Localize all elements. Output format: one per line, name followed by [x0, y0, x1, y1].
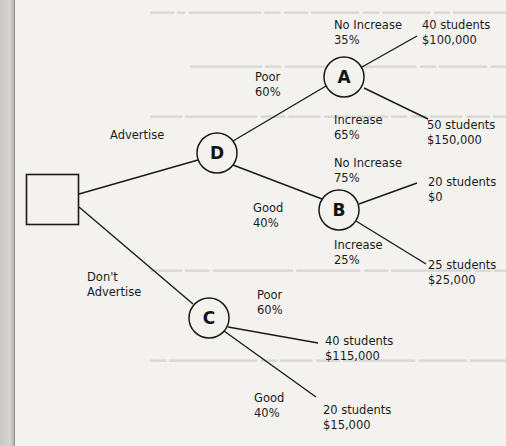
outcome-b-no-increase-students: 20 students: [428, 175, 496, 190]
branch-a-no-increase-prob: 35%: [334, 33, 360, 48]
option-dont-advertise-label-line1: Don't: [87, 270, 118, 285]
outcome-a-increase-profit: $150,000: [427, 133, 482, 148]
decision-node-square: [27, 175, 79, 225]
branch-d-good-name: Good: [253, 201, 283, 216]
chance-node-c: C: [189, 298, 229, 338]
outcome-a-increase-students: 50 students: [427, 118, 495, 133]
outcome-a-no-increase-profit: $100,000: [422, 33, 477, 48]
branch-d-good-prob: 40%: [253, 216, 279, 231]
page: ━━━━ ━━━━━━━ ━━ ━━━━━━ ━━ ━━━━━━ ━━━ ━━ …: [0, 0, 506, 446]
outcome-b-increase-profit: $25,000: [428, 273, 476, 288]
branch-c-good-name: Good: [254, 391, 284, 406]
outcome-c-poor-profit: $115,000: [325, 349, 380, 364]
edge-b-no-increase: [359, 183, 417, 204]
edge-advertise: [79, 160, 198, 194]
option-advertise-label: Advertise: [110, 128, 164, 143]
branch-c-poor-prob: 60%: [257, 303, 283, 318]
edge-d-good: [233, 165, 322, 199]
branch-b-increase-prob: 25%: [334, 253, 360, 268]
branch-a-increase-name: Increase: [334, 113, 383, 128]
edge-c-poor: [228, 327, 318, 343]
branch-a-increase-prob: 65%: [334, 128, 360, 143]
outcome-b-no-increase-profit: $0: [428, 190, 443, 205]
branch-b-no-increase-prob: 75%: [334, 171, 360, 186]
option-dont-advertise-label-line2: Advertise: [87, 285, 141, 300]
outcome-c-good-students: 20 students: [323, 403, 391, 418]
chance-node-d: D: [197, 133, 237, 173]
chance-node-a: A: [324, 57, 364, 97]
outcome-c-poor-students: 40 students: [325, 334, 393, 349]
outcome-a-no-increase-students: 40 students: [422, 18, 490, 33]
branch-a-no-increase-name: No Increase: [334, 18, 402, 33]
outcome-b-increase-students: 25 students: [428, 258, 496, 273]
outcome-c-good-profit: $15,000: [323, 418, 371, 433]
branch-c-good-prob: 40%: [254, 406, 280, 421]
branch-b-increase-name: Increase: [334, 238, 383, 253]
branch-d-poor-name: Poor: [255, 70, 280, 85]
branch-b-no-increase-name: No Increase: [334, 156, 402, 171]
branch-c-poor-name: Poor: [257, 288, 282, 303]
branch-d-poor-prob: 60%: [255, 85, 281, 100]
chance-node-b: B: [319, 190, 359, 230]
edge-a-no-increase: [362, 36, 417, 67]
